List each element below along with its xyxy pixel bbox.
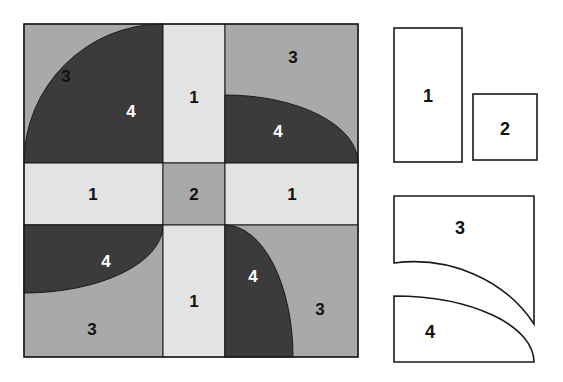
- grid-cell-middle-right: 1: [225, 163, 358, 225]
- grid-cell-top-center: 1: [163, 24, 225, 163]
- grid-cell-middle-center: 2: [163, 163, 225, 225]
- legend-piece-2: 2: [473, 94, 537, 160]
- legend-piece-4-label: 4: [425, 322, 435, 342]
- grid-cell-bottom-center: 1: [163, 225, 225, 357]
- grid-cell-bottom-right: 4 3: [225, 225, 358, 357]
- label-bl-3: 3: [87, 320, 96, 339]
- label-tr-3: 3: [288, 48, 297, 67]
- label-tc-1: 1: [189, 88, 198, 107]
- legend-piece-1: 1: [394, 28, 462, 162]
- grid-cell-bottom-left: 4 3: [24, 225, 163, 357]
- grid-cell-top-left: 3 4: [24, 24, 163, 163]
- label-ml-1: 1: [88, 185, 97, 204]
- legend-piece-1-label: 1: [423, 86, 433, 106]
- dissection-grid: 3 4 1 3 4 1 2 1: [24, 24, 358, 357]
- label-mc-2: 2: [189, 185, 198, 204]
- legend-piece-3-label: 3: [455, 218, 465, 238]
- grid-cell-middle-left: 1: [24, 163, 163, 225]
- label-bl-4: 4: [101, 252, 111, 271]
- label-br-4: 4: [248, 267, 258, 286]
- grid-cell-top-right: 3 4: [225, 24, 358, 163]
- label-bc-1: 1: [189, 292, 198, 311]
- label-tl-3: 3: [61, 67, 70, 86]
- dissection-figure: 3 4 1 3 4 1 2 1: [0, 0, 563, 382]
- label-tl-4: 4: [126, 102, 136, 121]
- cell-bc-piece1: [163, 225, 225, 357]
- label-br-3: 3: [315, 300, 324, 319]
- label-mr-1: 1: [287, 185, 296, 204]
- legend-piece-2-label: 2: [500, 119, 510, 139]
- label-tr-4: 4: [273, 122, 283, 141]
